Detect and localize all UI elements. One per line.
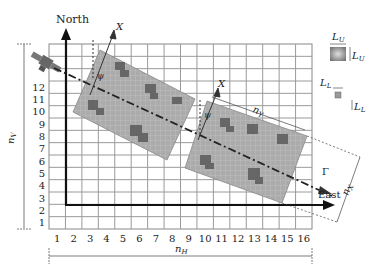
y-tick-label: 1: [39, 217, 45, 228]
svg-text:LL: LL: [353, 101, 366, 114]
x-tick-label: 13: [248, 233, 261, 244]
north-axis: [61, 28, 71, 205]
y-tick-labels: 123456789101112: [32, 82, 45, 229]
y-tick-label: 3: [39, 193, 45, 204]
x-tick-label: 6: [136, 233, 142, 244]
x-tick-label: 15: [281, 233, 294, 244]
x-tick-label: 12: [232, 233, 245, 244]
y-tick-label: 6: [39, 156, 45, 167]
y-tick-label: 4: [39, 180, 45, 191]
y-tick-label: 7: [39, 143, 45, 154]
y-tick-label: 10: [32, 106, 45, 117]
swath-grid-diagram: North East 12345678910111213141516 12345…: [0, 0, 378, 278]
psi-label-2: ψ: [204, 110, 212, 120]
cell-size-legend: LU LU LL LL: [319, 31, 366, 114]
dimension-lines: [17, 44, 360, 264]
n-v-label: nV: [5, 132, 18, 144]
swath-1: [73, 50, 195, 160]
y-tick-label: 12: [32, 82, 45, 93]
satellite-icon: [27, 50, 62, 79]
track-label: Γ: [322, 166, 329, 177]
x-tick-label: 2: [70, 233, 76, 244]
lower-cell-swatch: [335, 92, 341, 98]
n-h-label: nH: [175, 243, 188, 256]
x-tick-label: 1: [54, 233, 60, 244]
x-tick-labels: 12345678910111213141516: [54, 233, 310, 244]
x-tick-label: 4: [103, 233, 109, 244]
n-x-label: nX: [340, 181, 356, 197]
north-label: North: [56, 13, 89, 26]
x-tick-label: 16: [297, 233, 310, 244]
x-axis-label-1: X: [115, 21, 124, 32]
x-axis-label-2: X: [217, 78, 226, 89]
x-tick-label: 11: [215, 233, 228, 244]
psi-label-1: ψ: [97, 71, 105, 81]
svg-text:LL: LL: [319, 77, 332, 90]
x-tick-label: 5: [120, 233, 126, 244]
upper-cell-swatch: [330, 47, 346, 61]
x-tick-label: 3: [87, 233, 93, 244]
y-tick-label: 2: [39, 205, 45, 216]
x-tick-label: 9: [186, 233, 192, 244]
x-tick-label: 14: [265, 233, 278, 244]
x-tick-label: 7: [153, 233, 159, 244]
y-tick-label: 8: [39, 131, 45, 142]
svg-text:LU: LU: [331, 31, 346, 44]
svg-text:LU: LU: [351, 50, 366, 63]
y-tick-label: 9: [39, 119, 45, 130]
y-tick-label: 5: [39, 168, 45, 179]
x-tick-label: 10: [199, 233, 212, 244]
east-axis: [65, 200, 335, 210]
y-tick-label: 11: [32, 94, 45, 105]
east-label: East: [318, 189, 340, 200]
